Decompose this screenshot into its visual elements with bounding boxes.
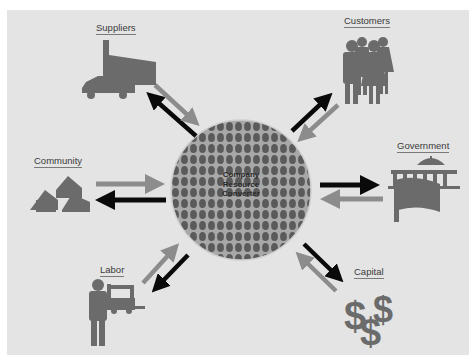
houses-icon [30,176,90,212]
worker-forklift-icon [89,279,145,346]
labor-arrows [143,250,188,286]
suppliers-arrows [153,85,196,136]
center-title-line-3: Converter [211,189,271,199]
capitol-flag-icon [388,156,460,222]
people-group-icon [343,37,394,104]
labor-label: Labor [100,264,124,275]
government-label: Government [397,140,449,151]
center-title-line-2: Resource [211,180,271,190]
capital-label: Capital [354,266,384,277]
government-arrows [320,185,383,199]
svg-text:$: $ [360,311,381,353]
center-title: Company Resource Converter [211,170,271,199]
capital-arrows [302,244,337,291]
center-title-line-1: Company [211,170,271,180]
community-arrows [96,184,166,200]
dollar-signs-icon: $ $ $ [344,289,393,353]
factory-truck-icon [82,40,156,99]
suppliers-label: Suppliers [96,22,136,33]
customers-arrows [292,99,338,136]
community-label: Community [34,155,82,166]
customers-label: Customers [344,15,390,26]
